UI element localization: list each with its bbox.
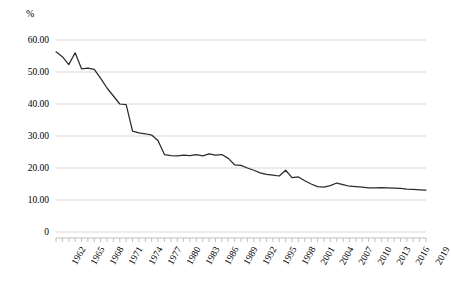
x-axis-ticks bbox=[56, 238, 426, 242]
gridlines bbox=[56, 40, 426, 232]
data-series-line bbox=[56, 52, 426, 190]
